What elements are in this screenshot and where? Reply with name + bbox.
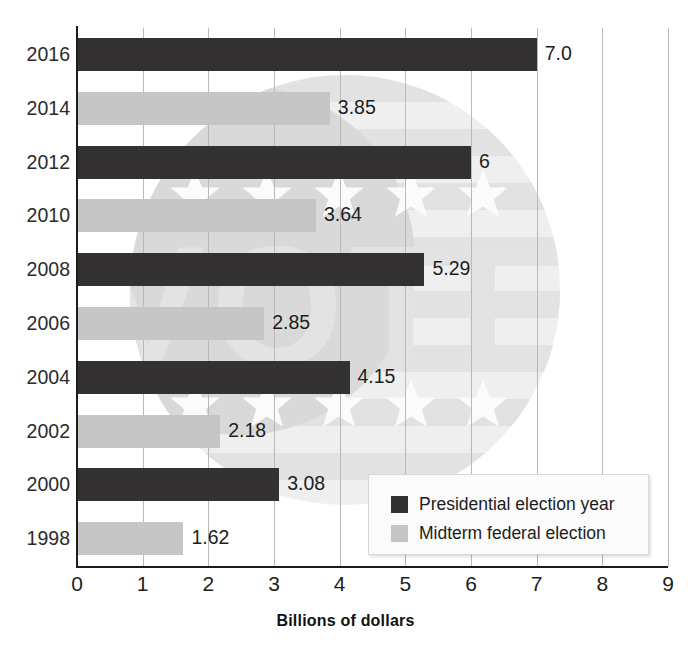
year-label-row: 2010 <box>0 189 70 243</box>
bar-2006[interactable] <box>77 307 264 340</box>
bar-value-label: 6 <box>479 145 490 178</box>
legend-swatch-icon <box>391 525 408 542</box>
year-label-row: 2002 <box>0 405 70 459</box>
x-axis-title: Billions of dollars <box>0 612 691 630</box>
bar-2002[interactable] <box>77 415 220 448</box>
bar-row: 3.64 <box>77 189 668 243</box>
year-label-row: 2016 <box>0 28 70 82</box>
legend: Presidential election yearMidterm federa… <box>368 474 649 555</box>
bar-row: 2.85 <box>77 297 668 351</box>
legend-label: Presidential election year <box>419 494 615 515</box>
legend-item-midterm[interactable]: Midterm federal election <box>391 518 606 548</box>
x-tick-label: 1 <box>123 572 163 596</box>
legend-item-presidential[interactable]: Presidential election year <box>391 489 615 519</box>
bar-value-label: 7.0 <box>545 37 572 70</box>
bar-value-label: 1.62 <box>191 521 229 554</box>
bar-value-label: 2.85 <box>272 306 310 339</box>
gridline <box>668 28 669 566</box>
bar-2004[interactable] <box>77 361 350 394</box>
bar-value-label: 3.08 <box>287 467 325 500</box>
year-label-row: 2012 <box>0 136 70 190</box>
year-label-1998: 1998 <box>4 522 70 555</box>
bar-row: 6 <box>77 136 668 190</box>
bar-value-label: 3.85 <box>338 91 376 124</box>
bar-2000[interactable] <box>77 468 279 501</box>
year-label-2004: 2004 <box>4 361 70 394</box>
year-label-2010: 2010 <box>4 199 70 232</box>
bar-row: 7.0 <box>77 28 668 82</box>
year-label-2006: 2006 <box>4 307 70 340</box>
x-tick-label: 8 <box>582 572 622 596</box>
year-label-row: 2006 <box>0 297 70 351</box>
bar-2012[interactable] <box>77 146 471 179</box>
x-tick-label: 4 <box>320 572 360 596</box>
bar-value-label: 3.64 <box>324 198 362 231</box>
bar-row: 3.85 <box>77 82 668 136</box>
bar-2008[interactable] <box>77 253 424 286</box>
year-label-row: 2008 <box>0 243 70 297</box>
bar-value-label: 5.29 <box>432 252 470 285</box>
year-label-row: 2014 <box>0 82 70 136</box>
x-tick-label: 6 <box>451 572 491 596</box>
x-tick-label: 7 <box>517 572 557 596</box>
bar-2010[interactable] <box>77 199 316 232</box>
x-tick-label: 9 <box>648 572 688 596</box>
year-label-2008: 2008 <box>4 253 70 286</box>
year-axis-labels: 2016201420122010200820062004200220001998 <box>0 28 70 566</box>
bar-row: 5.29 <box>77 243 668 297</box>
bar-row: 4.15 <box>77 351 668 405</box>
x-tick-label: 2 <box>188 572 228 596</box>
bar-value-label: 4.15 <box>358 360 396 393</box>
year-label-row: 2004 <box>0 351 70 405</box>
year-label-2016: 2016 <box>4 38 70 71</box>
x-axis-line <box>76 566 668 568</box>
year-label-2002: 2002 <box>4 415 70 448</box>
year-label-2000: 2000 <box>4 468 70 501</box>
x-axis-tick-labels: 0123456789 <box>77 572 668 602</box>
y-axis-line <box>76 26 78 566</box>
bar-chart: VOTE 20162014201220102008200620042002200… <box>0 0 691 653</box>
x-tick-label: 5 <box>385 572 425 596</box>
bar-2016[interactable] <box>77 38 537 71</box>
legend-swatch-icon <box>391 496 408 513</box>
year-label-2014: 2014 <box>4 92 70 125</box>
x-tick-label: 0 <box>57 572 97 596</box>
legend-label: Midterm federal election <box>419 523 606 544</box>
bar-2014[interactable] <box>77 92 330 125</box>
year-label-row: 2000 <box>0 458 70 512</box>
bar-value-label: 2.18 <box>228 414 266 447</box>
x-tick-label: 3 <box>254 572 294 596</box>
bar-row: 2.18 <box>77 405 668 459</box>
bar-1998[interactable] <box>77 522 183 555</box>
year-label-row: 1998 <box>0 512 70 566</box>
year-label-2012: 2012 <box>4 146 70 179</box>
